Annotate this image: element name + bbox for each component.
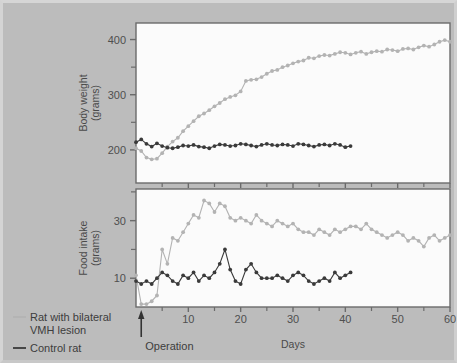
- series-point-bottom: [427, 236, 431, 240]
- series-point-bottom: [244, 268, 248, 272]
- series-point-bottom: [333, 227, 337, 231]
- series-point-top: [160, 151, 164, 155]
- series-point-top: [343, 51, 347, 55]
- series-point-bottom: [249, 222, 253, 226]
- series-point-bottom: [160, 248, 164, 252]
- series-point-bottom: [155, 294, 159, 298]
- series-point-top: [333, 142, 337, 146]
- series-point-top: [296, 60, 300, 64]
- series-point-bottom: [270, 225, 274, 229]
- series-point-bottom: [349, 271, 353, 275]
- series-point-top: [134, 140, 138, 144]
- series-point-bottom: [385, 236, 389, 240]
- series-point-bottom: [166, 273, 170, 277]
- series-point-bottom: [338, 276, 342, 280]
- xtick-label-60: 60: [444, 313, 456, 325]
- series-point-top: [155, 157, 159, 161]
- series-point-bottom: [443, 236, 447, 240]
- series-point-bottom: [218, 262, 222, 266]
- two-panel-chart: 200300400Body weight(grams)1030Food inta…: [3, 3, 457, 363]
- series-point-top: [213, 104, 217, 108]
- series-point-bottom: [281, 222, 285, 226]
- series-point-top: [145, 156, 149, 160]
- series-point-top: [323, 53, 327, 57]
- series-point-bottom: [438, 239, 442, 243]
- series-point-bottom: [234, 279, 238, 283]
- series-point-bottom: [296, 227, 300, 231]
- xtick-label-20: 20: [235, 313, 247, 325]
- plot-area-top: [136, 23, 450, 183]
- series-point-bottom: [281, 276, 285, 280]
- series-point-top: [385, 48, 389, 52]
- series-point-top: [192, 143, 196, 147]
- series-point-top: [312, 56, 316, 60]
- series-point-top: [218, 142, 222, 146]
- series-point-top: [249, 144, 253, 148]
- series-point-top: [265, 72, 269, 76]
- series-point-top: [234, 144, 238, 148]
- series-point-top: [249, 78, 253, 82]
- series-point-top: [427, 45, 431, 49]
- series-point-top: [281, 65, 285, 69]
- series-point-bottom: [375, 230, 379, 234]
- series-point-bottom: [249, 262, 253, 266]
- series-point-bottom: [265, 276, 269, 280]
- series-point-bottom: [207, 276, 211, 280]
- series-point-top: [239, 90, 243, 94]
- series-point-top: [296, 142, 300, 146]
- series-point-top: [145, 142, 149, 146]
- series-point-bottom: [422, 245, 426, 249]
- operation-label: Operation: [145, 340, 193, 352]
- series-point-top: [323, 142, 327, 146]
- series-point-top: [228, 95, 232, 99]
- series-point-top: [207, 108, 211, 112]
- series-point-bottom: [406, 239, 410, 243]
- series-point-top: [396, 49, 400, 53]
- series-point-bottom: [411, 236, 415, 240]
- series-point-bottom: [228, 216, 232, 220]
- series-point-top: [270, 143, 274, 147]
- series-point-bottom: [254, 271, 258, 275]
- series-point-bottom: [176, 282, 180, 286]
- series-point-top: [192, 119, 196, 123]
- ytick-label-bottom-10: 10: [114, 272, 126, 284]
- series-point-bottom: [312, 282, 316, 286]
- series-point-top: [202, 112, 206, 116]
- series-point-bottom: [275, 219, 279, 223]
- series-point-bottom: [359, 227, 363, 231]
- series-point-bottom: [275, 273, 279, 277]
- ytick-label-top-200: 200: [108, 144, 126, 156]
- ytick-label-top-400: 400: [108, 34, 126, 46]
- series-point-top: [364, 52, 368, 56]
- series-point-bottom: [354, 225, 358, 229]
- series-point-top: [370, 50, 374, 54]
- series-point-top: [265, 142, 269, 146]
- series-point-top: [160, 144, 164, 148]
- series-point-bottom: [202, 273, 206, 277]
- series-point-bottom: [254, 213, 258, 217]
- series-point-top: [197, 114, 201, 118]
- series-point-bottom: [134, 279, 138, 283]
- series-point-top: [270, 69, 274, 73]
- series-point-top: [275, 144, 279, 148]
- series-point-bottom: [218, 201, 222, 205]
- series-point-top: [260, 75, 264, 79]
- series-point-bottom: [401, 233, 405, 237]
- series-point-bottom: [139, 302, 143, 306]
- series-point-bottom: [307, 279, 311, 283]
- xtick-label-10: 10: [182, 313, 194, 325]
- series-point-top: [391, 48, 395, 52]
- series-point-bottom: [338, 230, 342, 234]
- series-point-top: [213, 144, 217, 148]
- series-point-top: [150, 157, 154, 161]
- series-point-top: [422, 44, 426, 48]
- series-point-top: [307, 144, 311, 148]
- series-point-top: [448, 40, 452, 44]
- series-point-top: [155, 141, 159, 145]
- series-point-bottom: [370, 227, 374, 231]
- series-point-top: [228, 144, 232, 148]
- series-point-top: [349, 53, 353, 57]
- ylabel-bottom-line2: (grams): [89, 230, 101, 266]
- series-point-top: [254, 145, 258, 149]
- xtick-label-40: 40: [339, 313, 351, 325]
